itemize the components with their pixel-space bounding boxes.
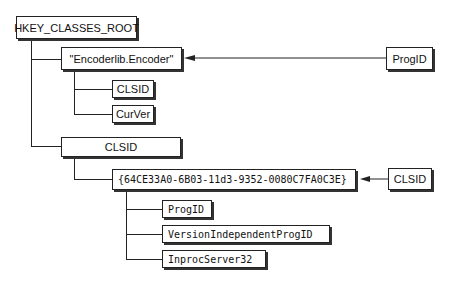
arrow-head-icon bbox=[360, 176, 370, 182]
progid-key-box: "Encoderlib.Encoder" bbox=[61, 47, 182, 70]
clsid-subkey-box: CLSID bbox=[112, 80, 154, 98]
inprocserver32-box: InprocServer32 bbox=[162, 250, 266, 268]
clsid-callout-box: CLSID bbox=[388, 168, 432, 190]
version-independent-progid-box: VersionIndependentProgID bbox=[162, 225, 330, 243]
curver-subkey-box: CurVer bbox=[112, 105, 154, 123]
arrow-head-icon bbox=[184, 55, 195, 61]
root-key-box: HKEY_CLASSES_ROOT bbox=[16, 16, 137, 39]
guid-key-box: {64CE33A0-6B03-11d3-9352-0080C7FA0C3E} bbox=[112, 169, 356, 190]
progid-callout-box: ProgID bbox=[386, 47, 433, 70]
progid-value-box: ProgID bbox=[162, 200, 212, 218]
clsid-key-box: CLSID bbox=[61, 137, 181, 157]
